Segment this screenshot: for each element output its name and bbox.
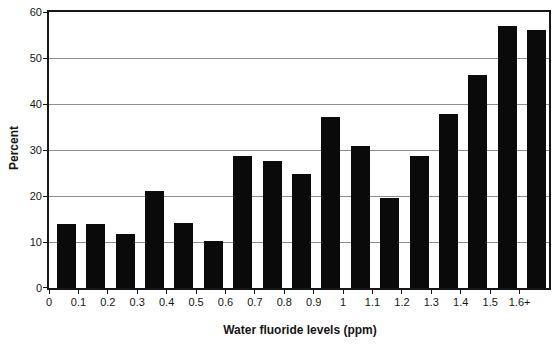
x-tick-mark (313, 290, 314, 294)
x-tick-mark (372, 290, 373, 294)
y-axis-title: Percent (7, 126, 21, 170)
y-tick-mark (43, 58, 47, 59)
x-tick-label: 0.1 (71, 297, 86, 308)
bar (527, 30, 546, 288)
x-tick-label: 0.8 (277, 297, 292, 308)
bar (86, 224, 105, 288)
bar (263, 161, 282, 288)
bar (321, 117, 340, 288)
y-tick-mark (43, 196, 47, 197)
bar (351, 146, 370, 288)
y-tick-mark (43, 242, 47, 243)
bar (174, 223, 193, 288)
x-tick-label: 1 (340, 297, 346, 308)
x-tick-mark (137, 290, 138, 294)
x-tick-mark (196, 290, 197, 294)
x-tick-label: 1.6+ (509, 297, 531, 308)
y-tick-label: 40 (30, 99, 42, 110)
bar (204, 241, 223, 288)
x-tick-mark (401, 290, 402, 294)
x-tick-mark (284, 290, 285, 294)
x-tick-mark (343, 290, 344, 294)
x-tick-label: 0 (46, 297, 52, 308)
x-tick-label: 0.9 (306, 297, 321, 308)
x-tick-mark (78, 290, 79, 294)
bar (145, 191, 164, 288)
x-tick-mark (460, 290, 461, 294)
x-tick-label: 0.2 (100, 297, 115, 308)
x-tick-label: 1.2 (394, 297, 409, 308)
x-tick-mark (431, 290, 432, 294)
y-tick-label: 30 (30, 145, 42, 156)
x-tick-mark (225, 290, 226, 294)
bar (292, 174, 311, 288)
x-tick-label: 1.3 (424, 297, 439, 308)
x-tick-mark (519, 290, 520, 294)
y-tick-label: 50 (30, 53, 42, 64)
y-tick-label: 10 (30, 237, 42, 248)
x-axis-title: Water fluoride levels (ppm) (223, 323, 377, 337)
gridline (49, 58, 549, 59)
bar (468, 75, 487, 288)
plot-area: 010203040506000.10.20.30.40.50.60.70.80.… (47, 10, 551, 290)
x-tick-label: 1.1 (365, 297, 380, 308)
x-tick-label: 0.6 (218, 297, 233, 308)
bar-chart: Percent 010203040506000.10.20.30.40.50.6… (0, 0, 559, 345)
bar (498, 26, 517, 288)
y-tick-mark (43, 287, 47, 288)
x-tick-label: 0.3 (130, 297, 145, 308)
x-tick-mark (49, 290, 50, 294)
bar (439, 114, 458, 288)
bar (116, 234, 135, 288)
bar (57, 224, 76, 288)
x-tick-label: 1.5 (483, 297, 498, 308)
bar (233, 156, 252, 288)
y-tick-mark (43, 12, 47, 13)
x-tick-label: 1.4 (453, 297, 468, 308)
x-tick-mark (254, 290, 255, 294)
x-tick-mark (490, 290, 491, 294)
x-tick-label: 0.7 (247, 297, 262, 308)
y-tick-label: 20 (30, 191, 42, 202)
y-tick-mark (43, 150, 47, 151)
bar (410, 156, 429, 288)
x-tick-mark (166, 290, 167, 294)
x-tick-mark (107, 290, 108, 294)
x-tick-label: 0.5 (188, 297, 203, 308)
bar (380, 198, 399, 288)
y-tick-label: 60 (30, 7, 42, 18)
x-tick-label: 0.4 (159, 297, 174, 308)
y-tick-label: 0 (36, 283, 42, 294)
y-tick-mark (43, 104, 47, 105)
